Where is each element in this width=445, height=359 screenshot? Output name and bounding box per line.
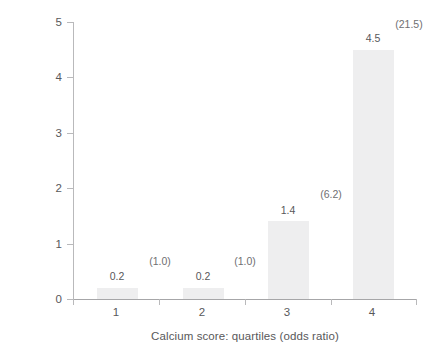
y-axis-line bbox=[73, 22, 74, 299]
y-axis-title: Annualized event rate (%) bbox=[10, 0, 34, 24]
y-tick-label-4: 4 bbox=[44, 72, 62, 84]
bar-quartile-2[interactable] bbox=[183, 288, 224, 299]
y-tick-label-2: 2 bbox=[44, 183, 62, 195]
x-tick-mark-3 bbox=[331, 299, 332, 305]
bar-value-label-3: 1.4 bbox=[265, 205, 311, 216]
y-tick-mark-1 bbox=[67, 244, 73, 245]
x-tick-label-3: 3 bbox=[267, 307, 307, 319]
x-tick-label-1: 1 bbox=[96, 307, 136, 319]
y-tick-label-1: 1 bbox=[44, 239, 62, 251]
x-tick-mark-2 bbox=[245, 299, 246, 305]
odds-ratio-label-4: (21.5) bbox=[386, 19, 432, 30]
y-tick-label-5: 5 bbox=[44, 17, 62, 29]
odds-ratio-label-2: (1.0) bbox=[222, 256, 268, 267]
odds-ratio-label-1: (1.0) bbox=[137, 256, 183, 267]
y-tick-mark-4 bbox=[67, 77, 73, 78]
x-tick-mark-start bbox=[73, 299, 74, 305]
x-tick-label-4: 4 bbox=[352, 307, 392, 319]
bar-value-label-1: 0.2 bbox=[94, 271, 140, 282]
x-tick-mark-1 bbox=[159, 299, 160, 305]
y-tick-mark-3 bbox=[67, 133, 73, 134]
bar-chart: Annualized event rate (%) 5 4 3 2 1 0 1 … bbox=[0, 0, 445, 359]
bar-quartile-1[interactable] bbox=[97, 288, 138, 299]
bar-value-label-2: 0.2 bbox=[180, 271, 226, 282]
bar-quartile-4[interactable] bbox=[353, 50, 394, 299]
y-tick-mark-5 bbox=[67, 22, 73, 23]
x-axis-title: Calcium score: quartiles (odds ratio) bbox=[73, 330, 417, 342]
y-tick-label-0: 0 bbox=[44, 294, 62, 306]
y-tick-label-3: 3 bbox=[44, 128, 62, 140]
bar-value-label-4: 4.5 bbox=[350, 33, 396, 44]
y-tick-mark-2 bbox=[67, 188, 73, 189]
x-tick-label-2: 2 bbox=[182, 307, 222, 319]
odds-ratio-label-3: (6.2) bbox=[308, 189, 354, 200]
bar-quartile-3[interactable] bbox=[268, 221, 309, 299]
x-tick-mark-end bbox=[416, 299, 417, 305]
